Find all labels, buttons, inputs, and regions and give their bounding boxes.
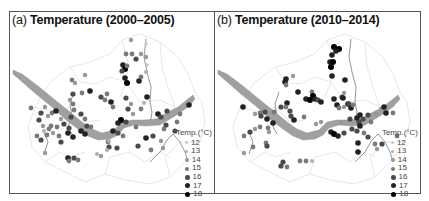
station-dot [144,70,148,74]
station-dot [139,52,143,56]
station-dot [329,52,335,58]
station-dot [242,134,247,139]
station-dot [123,119,128,124]
station-dot [375,147,379,151]
station-dot [158,114,163,119]
station-dot [107,139,111,143]
legend-label: 18 [193,190,202,199]
station-dot [374,112,378,116]
station-dot [68,114,73,119]
station-dot [80,91,85,96]
station-dot [319,120,323,124]
station-dot [105,92,110,97]
station-dot [349,126,354,131]
station-dot [70,91,75,96]
station-dot [291,74,295,78]
station-dot [89,125,94,130]
station-dot [71,102,76,107]
station-dot [342,105,346,109]
station-dot [163,122,168,127]
station-dot [144,55,148,59]
station-dot [342,91,346,95]
station-dot [251,145,256,150]
station-dot [135,143,140,148]
legend: Temp.(°C) 12131415161718 [382,129,418,199]
station-dot [29,106,34,111]
station-dot [333,48,339,54]
tributary-streams [44,39,188,162]
station-dot [43,105,47,109]
station-dot [130,52,135,57]
station-dot [331,96,337,102]
station-dot [355,149,361,155]
station-dot [240,104,246,110]
legend-swatch-icon [185,158,189,162]
station-dot [122,75,128,81]
station-dot [51,131,55,135]
station-dot [258,113,263,118]
legend-swatch-icon [185,183,190,188]
station-dot [264,143,269,148]
station-dot [121,134,126,139]
station-dot [310,159,314,163]
panel-a-temperature-2000-2005: (a) Temperature (2000–2005) Temp.(°C) [9,11,215,194]
station-dot [373,142,378,147]
station-dot [45,133,50,138]
station-dot [43,151,47,155]
station-dot [295,89,301,95]
station-dot [340,95,346,101]
station-dot [67,159,72,164]
station-dot [253,112,257,116]
station-dot [143,135,149,141]
station-dot [35,134,40,139]
station-dot [124,80,130,86]
station-dot [360,116,365,121]
legend-entry: 18 [176,190,212,199]
station-dot [164,108,169,113]
legend-title: Temp.(°C) [176,129,212,138]
station-dot [55,125,60,130]
station-dot [266,126,271,131]
station-dot [291,117,297,123]
legend-swatch-icon [391,192,396,197]
station-dot [72,108,77,113]
station-dot [270,120,276,126]
station-dot [133,56,138,61]
legend-swatch-icon [391,167,395,171]
legend-swatch-icon [185,150,188,153]
legend-swatch-icon [391,150,394,153]
station-dot [46,114,50,118]
legend-swatch-icon [391,183,396,188]
station-dot [68,98,72,102]
legend-entry: 18 [382,190,418,199]
station-dot [115,120,121,126]
station-dot [365,134,370,139]
station-dot [145,63,149,67]
station-dot [119,68,124,73]
station-dot [83,73,87,77]
station-dot [178,112,183,117]
station-dot [114,145,119,150]
station-dot [78,111,83,116]
station-dot [318,99,324,105]
station-dot [124,52,129,57]
station-dot [298,159,303,164]
station-dot [258,125,263,130]
station-dot [65,130,71,136]
station-dot [47,127,52,132]
station-dot [342,77,348,83]
station-dot [287,108,292,113]
station-dot [354,128,359,133]
station-dot [61,121,66,126]
station-dot [304,159,309,164]
station-dot [36,117,41,122]
station-dot [175,120,180,125]
station-dot [351,103,356,108]
station-dot [383,110,389,116]
station-dot [42,129,46,133]
station-dot [284,105,289,110]
station-dot [38,137,43,142]
legend: Temp.(°C) 12131415161718 [176,129,212,199]
station-dot [186,102,192,108]
station-dot [38,110,43,115]
